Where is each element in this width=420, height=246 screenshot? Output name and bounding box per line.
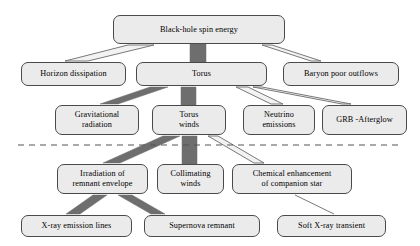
node-chemical-enhancement-of-companion-star[interactable]: Chemical enhancement of companion star [232,164,352,194]
node-label-irradiation-of-remnant-envelope: Irradiation of remnant envelope [72,169,132,190]
node-collimating-winds[interactable]: Collimating winds [157,164,224,194]
node-torus-winds[interactable]: Torus winds [152,105,226,135]
node-label-soft-x-ray-transient: Soft X-ray transient [298,221,365,231]
node-grb-afterglow[interactable]: GRB -Afterglow [322,105,407,135]
connector-spin-to-baryon [262,45,321,61]
node-label-black-hole-spin-energy: Black-hole spin energy [160,25,238,35]
node-x-ray-emission-lines[interactable]: X-ray emission lines [21,215,132,237]
connector-chemical-to-soft-x-ray [295,195,334,214]
node-label-horizon-dissipation: Horizon dissipation [40,69,106,79]
connector-irradiation-to-supernova [118,195,165,214]
node-label-grb-afterglow: GRB -Afterglow [336,115,393,125]
node-label-x-ray-emission-lines: X-ray emission lines [42,221,112,231]
node-supernova-remnant[interactable]: Supernova remnant [144,215,260,237]
node-label-gravitational-radiation: Gravitational radiation [75,110,120,131]
node-label-supernova-remnant: Supernova remnant [169,221,235,231]
node-label-neutrino-emissions: Neutrino emissions [262,110,295,131]
connector-spin-to-torus [190,44,206,62]
node-torus[interactable]: Torus [136,62,267,86]
node-label-collimating-winds: Collimating winds [170,169,210,190]
connector-torus-to-gravitational [100,87,168,104]
node-black-hole-spin-energy[interactable]: Black-hole spin energy [113,15,285,44]
node-label-torus: Torus [192,69,211,79]
flow-diagram: Black-hole spin energyHorizon dissipatio… [0,0,420,246]
node-gravitational-radiation[interactable]: Gravitational radiation [55,105,139,135]
connector-spin-to-horizon [65,45,154,61]
connector-irradiation-to-x-ray-lines [66,195,107,214]
node-neutrino-emissions[interactable]: Neutrino emissions [243,105,315,135]
connector-torus-to-torus-winds [181,87,196,105]
connector-torus-winds-to-chemical [208,136,264,163]
connector-torus-winds-to-irradiation [103,136,180,163]
node-label-baryon-poor-outflows: Baryon poor outflows [304,69,378,79]
node-irradiation-of-remnant-envelope[interactable]: Irradiation of remnant envelope [57,164,148,194]
node-horizon-dissipation[interactable]: Horizon dissipation [21,62,126,86]
node-baryon-poor-outflows[interactable]: Baryon poor outflows [283,62,399,86]
connector-torus-winds-to-collimating [182,136,197,164]
node-label-torus-winds: Torus winds [179,110,199,131]
node-soft-x-ray-transient[interactable]: Soft X-ray transient [277,215,386,237]
node-label-chemical-enhancement-of-companion-star: Chemical enhancement of companion star [253,169,332,190]
